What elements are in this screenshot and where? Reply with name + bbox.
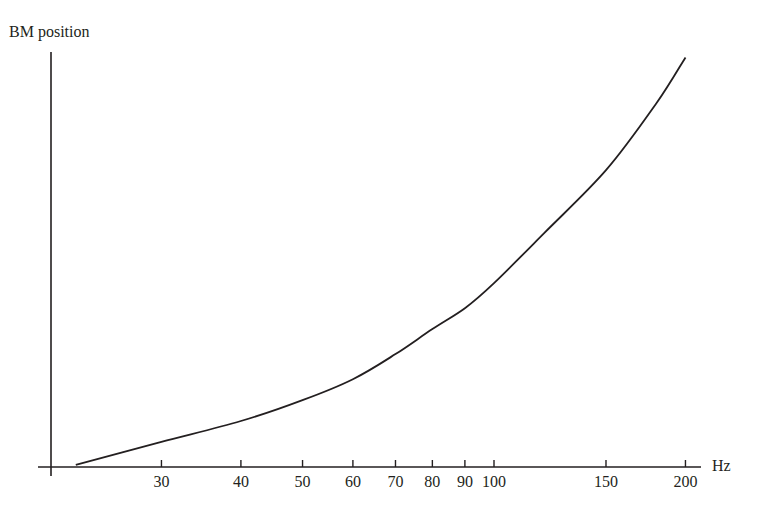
x-tick-label: 200 xyxy=(673,473,697,490)
x-tick-label: 100 xyxy=(482,473,506,490)
y-axis-title: BM position xyxy=(9,23,89,41)
x-axis-tick-labels: 30405060708090100150200 xyxy=(153,473,697,490)
chart: BM position 30405060708090100150200 Hz xyxy=(0,0,757,510)
x-tick-label: 90 xyxy=(457,473,473,490)
x-tick-label: 40 xyxy=(233,473,249,490)
x-axis-title: Hz xyxy=(712,457,731,474)
x-tick-label: 30 xyxy=(153,473,169,490)
data-curve xyxy=(76,57,686,465)
x-axis-ticks xyxy=(161,460,685,467)
x-tick-label: 50 xyxy=(295,473,311,490)
x-tick-label: 70 xyxy=(387,473,403,490)
x-tick-label: 60 xyxy=(345,473,361,490)
x-tick-label: 80 xyxy=(424,473,440,490)
x-tick-label: 150 xyxy=(594,473,618,490)
